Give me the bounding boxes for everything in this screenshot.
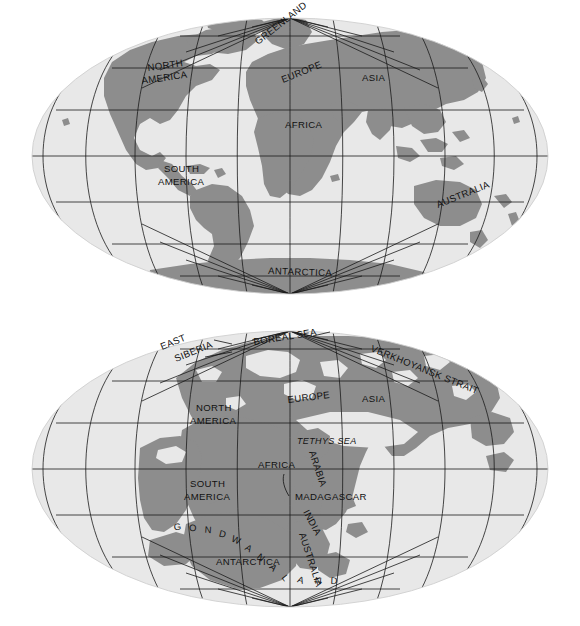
label-north-america: NORTH (196, 402, 232, 413)
map-svg-jurassic: EASTSIBERIABOREAL SEAVERKHOYANSK STRAITN… (0, 313, 580, 626)
label-north-america: AMERICA (190, 415, 236, 426)
present-day-world-map: GREENLANDNORTHAMERICAEUROPEASIAAFRICASOU… (0, 0, 580, 313)
label-south-america: AMERICA (158, 176, 204, 187)
gondwanaland-letter: O (189, 522, 197, 533)
label-south-america: SOUTH (190, 478, 225, 489)
label-tethys-sea: TETHYS SEA (297, 436, 357, 446)
map-svg-modern: GREENLANDNORTHAMERICAEUROPEASIAAFRICASOU… (0, 0, 580, 313)
figure-two-world-maps: GREENLANDNORTHAMERICAEUROPEASIAAFRICASOU… (0, 0, 580, 626)
label-africa: AFRICA (285, 119, 323, 130)
gondwanaland-letter: G (173, 521, 182, 533)
gondwanaland-letter: D (330, 575, 338, 586)
label-asia: ASIA (362, 393, 386, 404)
label-south-america: SOUTH (164, 163, 199, 174)
gondwanaland-letter: N (204, 524, 212, 535)
label-asia: ASIA (362, 72, 386, 83)
label-madagascar: MADAGASCAR (295, 491, 367, 502)
label-africa: AFRICA (258, 459, 296, 470)
label-antarctica: ANTARCTICA (268, 265, 333, 278)
jurassic-paleogeography-map: EASTSIBERIABOREAL SEAVERKHOYANSK STRAITN… (0, 313, 580, 626)
label-south-america: AMERICA (184, 491, 230, 502)
gondwanaland-letter: N (314, 575, 322, 587)
